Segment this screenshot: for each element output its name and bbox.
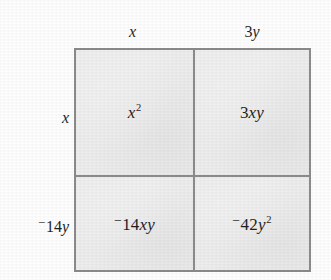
cell-expression: −42y2 bbox=[232, 214, 271, 233]
cell-expression: −14xy bbox=[114, 214, 155, 233]
grid-cell-negative-14xy: −14xy bbox=[76, 175, 193, 270]
row-header-negative-14y: −14y bbox=[38, 217, 69, 235]
row-header-x: x bbox=[62, 110, 69, 126]
grid-cell-3xy: 3xy bbox=[193, 50, 309, 175]
column-header-x: x bbox=[74, 24, 191, 40]
area-model-grid: x2 3xy −14xy −42y2 bbox=[74, 48, 311, 272]
grid-cell-negative-42y-squared: −42y2 bbox=[193, 175, 309, 270]
grid-cell-x-squared: x2 bbox=[76, 50, 193, 175]
cell-expression: 3xy bbox=[240, 104, 264, 121]
column-header-3y: 3y bbox=[193, 24, 311, 40]
area-model-figure: x 3y x −14y x2 3xy −14xy −42y2 bbox=[0, 0, 331, 280]
cell-expression: x2 bbox=[128, 104, 142, 121]
